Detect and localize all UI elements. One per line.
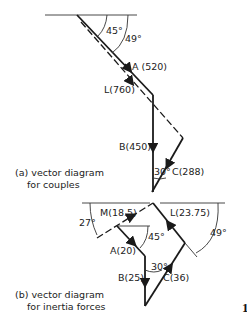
- label-b: B(450): [119, 141, 151, 152]
- label-m: M(18.5): [100, 207, 137, 218]
- label-a-b: A(20): [110, 245, 136, 256]
- arrow-l-b: [169, 224, 172, 228]
- angle-label-49: 49°: [125, 33, 142, 44]
- angle-label-30: 30°: [154, 166, 171, 177]
- caption-a-line2: for couples: [27, 179, 80, 190]
- vector-diagrams: 45° 49° A (520) L(760) B(450) 30° C(288)…: [0, 0, 247, 324]
- angle-label-27: 27°: [79, 217, 96, 228]
- caption-b-line1: (b) vector diagram: [15, 289, 104, 300]
- angle-label-45-b: 45°: [148, 231, 165, 242]
- arrow-c-b: [168, 267, 170, 270]
- caption-a-line1: (a) vector diagram: [15, 167, 104, 178]
- label-a: A (520): [132, 61, 167, 72]
- label-c-b: C(36): [163, 272, 189, 283]
- diagram-a: 45° 49° A (520) L(760) B(450) 30° C(288)…: [15, 15, 204, 192]
- diagram-b: 27° M(18.5) 45° A(20) L(23.75) 49° 30° B…: [15, 203, 227, 312]
- label-c: C(288): [172, 166, 204, 177]
- arrow-c: [168, 161, 170, 165]
- vector-c-couples: [152, 138, 183, 192]
- angle-label-49-b: 49°: [210, 227, 227, 238]
- caption-b-line2: for inertia forces: [27, 301, 106, 312]
- angle-label-30-b: 30°: [151, 261, 168, 272]
- extension-l: [185, 243, 197, 257]
- label-l-b: L(23.75): [170, 207, 210, 218]
- label-l: L(760): [104, 84, 135, 95]
- arrow-a-b: [130, 240, 133, 243]
- angle-arc-45-b: [140, 226, 148, 248]
- label-b-b: B(25): [118, 272, 144, 283]
- figure-marker: 1: [242, 300, 247, 315]
- angle-label-45: 45°: [106, 25, 123, 36]
